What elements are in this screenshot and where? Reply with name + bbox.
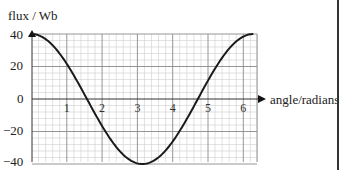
x-axis-arrow-icon: [258, 95, 266, 103]
x-tick-2: 2: [99, 101, 105, 115]
y-tick-neg20: −20: [3, 124, 23, 137]
y-tick-neg40: −40: [3, 155, 23, 168]
y-tick-20: 20: [10, 59, 23, 72]
x-tick-4: 4: [170, 101, 176, 115]
x-tick-5: 5: [205, 101, 211, 115]
y-tick-40: 40: [10, 28, 23, 41]
y-axis-label: flux / Wb: [8, 9, 58, 22]
y-tick-0: 0: [17, 92, 24, 105]
right-border: [337, 0, 339, 170]
chart-canvas: 123456: [0, 0, 340, 170]
minor-grid: [32, 34, 257, 162]
x-tick-6: 6: [240, 101, 246, 115]
x-tick-3: 3: [134, 101, 140, 115]
x-tick-1: 1: [64, 101, 70, 115]
x-axis-label: angle/radians: [270, 93, 339, 106]
